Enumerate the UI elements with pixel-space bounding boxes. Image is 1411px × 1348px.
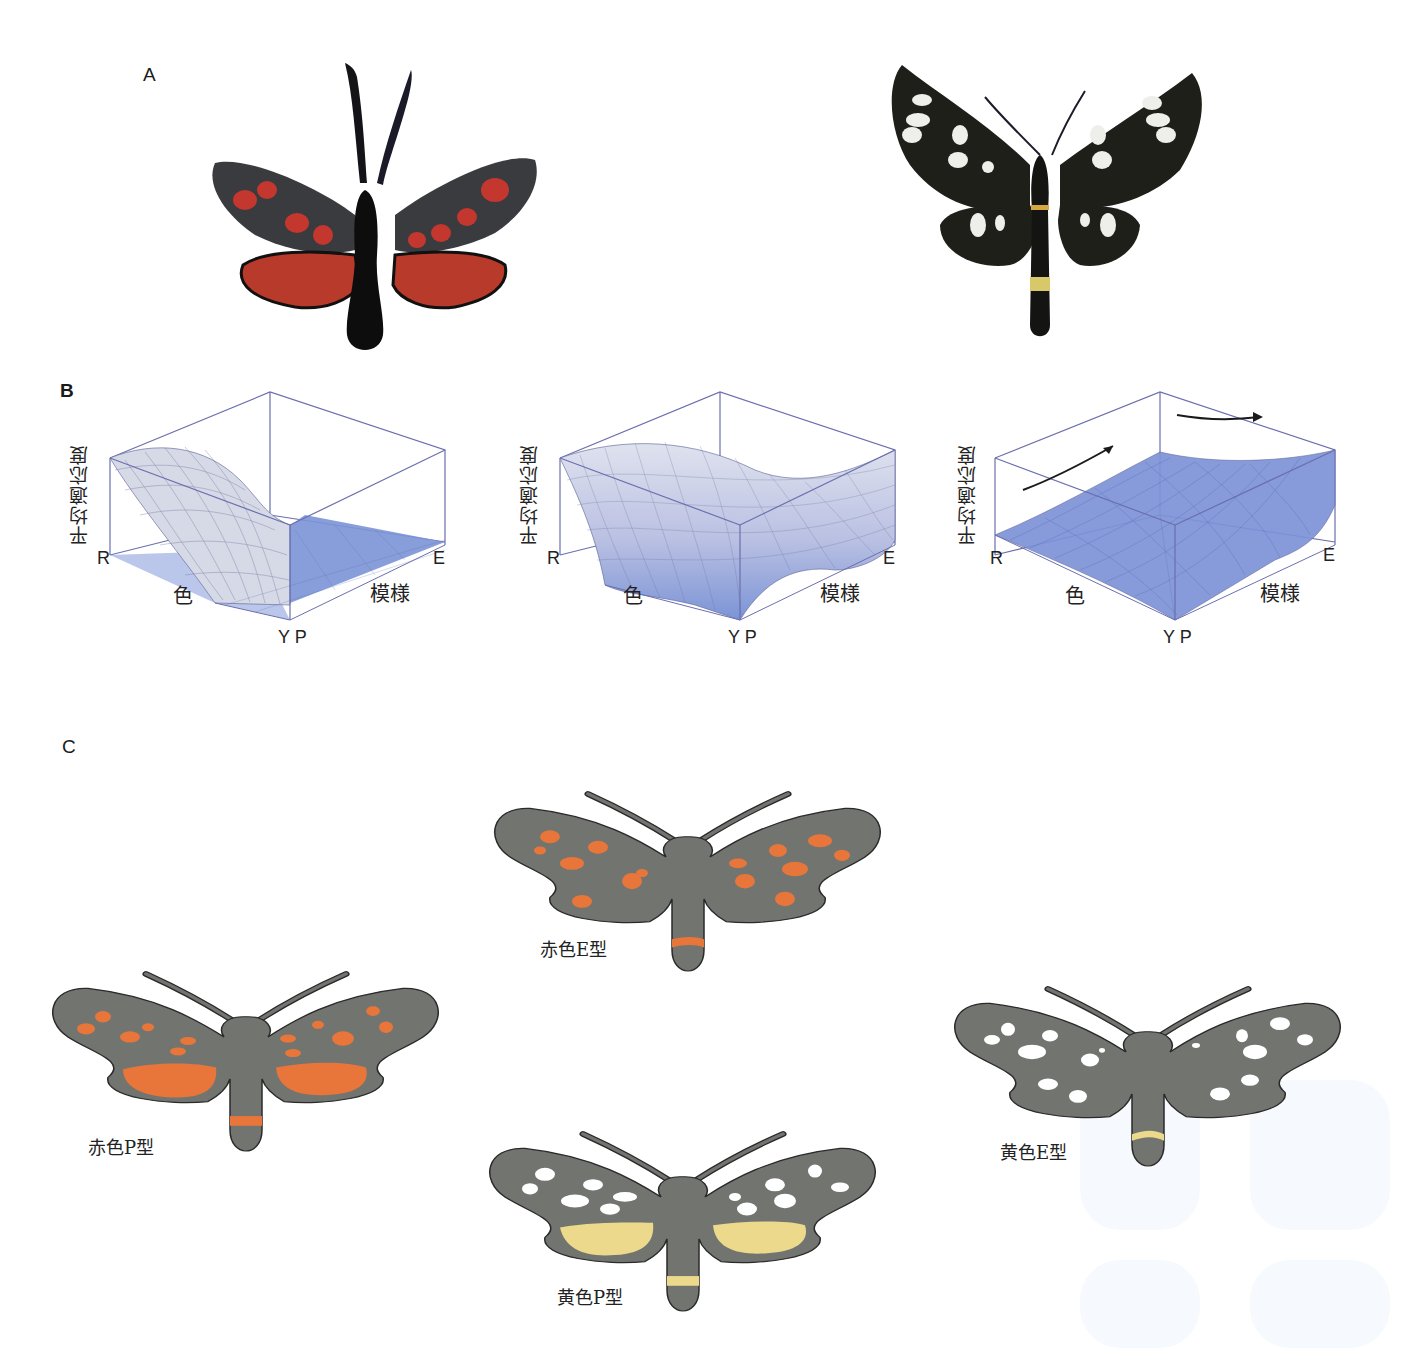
morph-red-p: 赤色P型 <box>48 940 448 1150</box>
corner-label: Y P <box>1163 627 1192 648</box>
white-spot-moth-photo <box>880 55 1220 355</box>
y-axis-label: 模様 <box>370 578 410 607</box>
fitness-plot-2: 平均適応度 R 色 Y P 模様 E <box>505 390 905 650</box>
corner-label: Y P <box>278 627 307 648</box>
scan-artifact <box>1080 1260 1200 1348</box>
morph-yellow-e: 黄色E型 <box>950 955 1350 1165</box>
z-axis-label: 平均適応度 <box>65 445 92 545</box>
morph-red-e: 赤色E型 <box>490 760 890 970</box>
x-axis-label: 色 <box>173 580 193 609</box>
y-end-label: E <box>1323 545 1335 566</box>
x-axis-label: 色 <box>1065 580 1085 609</box>
morph-caption: 赤色E型 <box>540 935 607 961</box>
red-moth-photo <box>205 55 545 355</box>
panel-label-a: A <box>143 64 156 86</box>
morph-yellow-p: 黄色P型 <box>485 1100 885 1310</box>
morph-caption: 黄色E型 <box>1000 1138 1067 1164</box>
fitness-plot-1: 平均適応度 R 色 Y P 模様 E <box>55 390 455 650</box>
x-start-label: R <box>97 548 110 569</box>
y-end-label: E <box>883 548 895 569</box>
corner-label: Y P <box>728 627 757 648</box>
z-axis-label: 平均適応度 <box>515 445 542 545</box>
fitness-plot-3: 平均適応度 R 色 Y P 模様 E <box>945 390 1345 650</box>
y-axis-label: 模様 <box>1260 578 1300 607</box>
morph-caption: 黄色P型 <box>557 1283 623 1309</box>
z-axis-label: 平均適応度 <box>953 445 980 545</box>
x-axis-label: 色 <box>623 580 643 609</box>
y-axis-label: 模様 <box>820 578 860 607</box>
scan-artifact <box>1250 1260 1390 1348</box>
x-start-label: R <box>990 548 1003 569</box>
morph-caption: 赤色P型 <box>88 1133 154 1159</box>
x-start-label: R <box>547 548 560 569</box>
panel-label-c: C <box>62 736 76 758</box>
y-end-label: E <box>433 548 445 569</box>
